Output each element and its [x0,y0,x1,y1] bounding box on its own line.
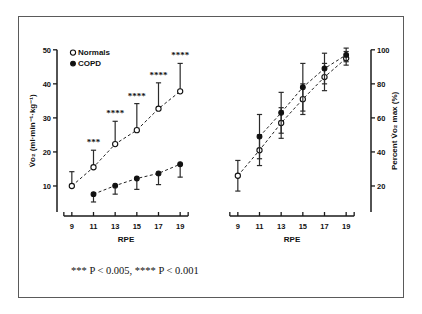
significance-marker: **** [150,70,169,80]
y-tick-label: 20 [43,148,51,157]
data-point-filled [322,66,327,71]
y-axis-title: Percent V̇o₂ max (%) [390,91,399,170]
significance-marker: **** [171,50,190,60]
svg-render-root: 1020304050V̇o₂ (ml·min⁻¹·kg⁻¹)9111315171… [28,46,399,244]
data-point-filled [91,192,96,197]
data-point-filled [257,134,262,139]
y-tick-label: 60 [377,114,385,123]
y-axis-title: V̇o₂ (ml·min⁻¹·kg⁻¹) [28,94,37,167]
significance-caption: *** P < 0.005, **** P < 0.001 [71,265,199,276]
y-tick-label: 30 [43,114,51,123]
x-axis-title: RPE [118,235,135,244]
x-tick-label: 9 [236,222,240,231]
x-tick-label: 13 [111,222,119,231]
legend-label: Normals [78,48,111,57]
y-tick-label: 50 [43,46,51,55]
significance-marker: **** [128,91,147,101]
series-copd [91,162,183,202]
y-tick-label: 80 [377,80,385,89]
x-tick-label: 11 [256,222,264,231]
data-point-filled [113,183,118,188]
y-tick-label: 10 [43,182,51,191]
x-tick-label: 15 [133,222,141,231]
data-point-open [113,142,118,147]
data-point-filled [300,85,305,90]
y-tick-label: 100 [377,46,390,55]
y-tick-label: 40 [43,80,51,89]
data-point-filled [178,162,183,167]
data-point-open [156,106,161,111]
x-tick-label: 17 [154,222,162,231]
series-copd [257,48,349,159]
panel-left: 1020304050V̇o₂ (ml·min⁻¹·kg⁻¹)9111315171… [28,46,190,244]
series-normals [235,52,349,192]
legend-label: COPD [78,59,101,68]
panel-right: 20406080100Percent V̇o₂ max (%)911131517… [230,46,399,244]
x-axis-title: RPE [284,235,301,244]
figure-frame: 1020304050V̇o₂ (ml·min⁻¹·kg⁻¹)9111315171… [18,16,404,298]
data-point-open [69,183,74,188]
data-point-open [134,128,139,133]
x-tick-label: 15 [299,222,307,231]
legend: NormalsCOPD [70,48,110,68]
significance-marker: *** [87,137,101,147]
y-tick-label: 40 [377,148,385,157]
legend-marker-filled [71,61,76,66]
data-point-open [178,89,183,94]
significance-marker: **** [106,108,125,118]
x-tick-label: 17 [320,222,328,231]
data-point-filled [344,53,349,58]
y-tick-label: 20 [377,182,385,191]
data-point-open [235,173,240,178]
data-point-filled [134,176,139,181]
x-tick-label: 19 [342,222,350,231]
x-tick-label: 19 [176,222,184,231]
caption-text: *** P < 0.005, **** P < 0.001 [71,265,199,276]
data-point-open [91,165,96,170]
data-point-filled [156,171,161,176]
series-line [238,58,346,175]
x-tick-label: 11 [90,222,98,231]
plot-area: 1020304050V̇o₂ (ml·min⁻¹·kg⁻¹)9111315171… [19,17,405,299]
legend-marker-open [70,50,75,55]
x-tick-label: 9 [70,222,74,231]
data-point-filled [279,110,284,115]
figure-svg: 1020304050V̇o₂ (ml·min⁻¹·kg⁻¹)9111315171… [19,17,405,299]
x-tick-label: 13 [277,222,285,231]
